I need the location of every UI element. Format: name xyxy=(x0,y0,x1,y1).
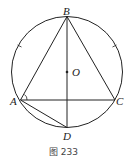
angle-mark-a xyxy=(25,95,28,101)
label-a: A xyxy=(9,95,17,107)
label-o: O xyxy=(72,66,80,78)
label-d: D xyxy=(62,130,71,142)
label-c: C xyxy=(116,95,124,107)
segment-ad xyxy=(21,100,68,128)
geometry-figure: B O A C D 图 233 xyxy=(0,0,128,161)
segment-bc xyxy=(67,17,115,101)
figure-caption: 图 233 xyxy=(49,147,78,157)
label-b: B xyxy=(63,5,70,17)
center-point-o xyxy=(66,71,69,74)
segment-ab xyxy=(21,17,68,101)
